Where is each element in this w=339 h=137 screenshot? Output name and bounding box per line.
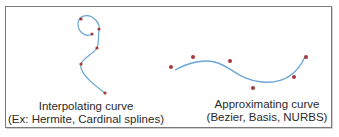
interpolating-title: Interpolating curve <box>5 100 167 113</box>
interpolating-subtitle: (Ex: Hermite, Cardinal splines) <box>5 113 167 126</box>
control-point <box>79 17 82 20</box>
control-point <box>90 32 93 35</box>
approximating-caption: Approximating curve (Bezier, Basis, NURB… <box>197 98 337 124</box>
control-point <box>169 65 173 69</box>
control-point <box>97 27 100 30</box>
approximating-curve <box>175 57 305 82</box>
control-point <box>228 59 232 63</box>
interpolating-caption: Interpolating curve (Ex: Hermite, Cardin… <box>5 100 167 126</box>
control-point <box>103 91 106 94</box>
approximating-control-points <box>169 55 308 90</box>
control-point <box>292 75 296 79</box>
control-point <box>191 55 195 59</box>
control-point <box>304 55 308 59</box>
interpolating-curve <box>78 16 105 93</box>
control-point <box>79 62 82 65</box>
control-point <box>251 86 255 90</box>
approximating-title: Approximating curve <box>197 98 337 111</box>
control-point <box>95 46 98 49</box>
approximating-subtitle: (Bezier, Basis, NURBS) <box>197 111 337 124</box>
